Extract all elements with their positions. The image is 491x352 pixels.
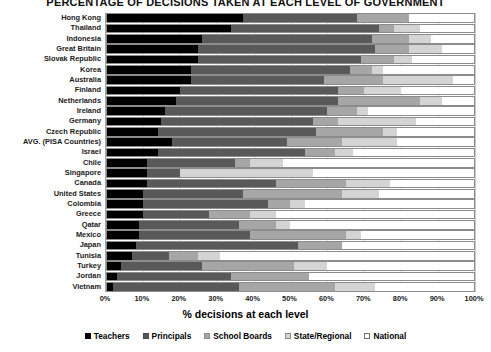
bar-segment-national [342, 241, 475, 250]
bar-segment-school-boards [239, 282, 335, 291]
stacked-bar[interactable] [106, 261, 475, 270]
x-axis-tick: 30% [208, 294, 223, 303]
bar-segment-principals [143, 210, 209, 219]
stacked-bar[interactable] [106, 75, 475, 84]
stacked-bar[interactable] [106, 158, 475, 167]
bar-segment-national [390, 179, 475, 188]
bar-segment-national [290, 220, 475, 229]
stacked-bar[interactable] [106, 251, 475, 260]
stacked-bar[interactable] [106, 44, 475, 53]
bar-segment-teachers [106, 127, 158, 136]
x-axis-tick: 90% [430, 294, 445, 303]
bar-segment-state-regional [250, 210, 276, 219]
y-axis-label: Thailand [0, 23, 101, 32]
stacked-bar[interactable] [106, 272, 475, 281]
bar-segment-teachers [106, 106, 165, 115]
bar-segment-principals [191, 65, 350, 74]
bar-segment-principals [202, 34, 372, 43]
bar-segment-teachers [106, 75, 191, 84]
bar-segment-school-boards [276, 179, 346, 188]
bar-segment-school-boards [169, 251, 199, 260]
bar-segment-teachers [106, 210, 143, 219]
bar-segment-principals [139, 220, 239, 229]
stacked-bar[interactable] [106, 179, 475, 188]
stacked-bar[interactable] [106, 148, 475, 157]
stacked-bar[interactable] [106, 106, 475, 115]
stacked-bar[interactable] [106, 168, 475, 177]
table-row [106, 44, 475, 53]
bar-segment-school-boards [243, 189, 343, 198]
bar-segment-school-boards [338, 96, 419, 105]
bar-segment-school-boards [324, 75, 383, 84]
bar-segment-teachers [106, 65, 191, 74]
bar-segment-national [409, 13, 475, 22]
stacked-bar[interactable] [106, 282, 475, 291]
bar-segment-principals [198, 44, 375, 53]
bar-segment-national [442, 96, 475, 105]
bar-segment-school-boards [313, 117, 339, 126]
y-axis-label: Israel [0, 147, 101, 156]
bar-segment-national [401, 86, 475, 95]
bar-segment-teachers [106, 261, 121, 270]
y-axis-label: Australia [0, 75, 101, 84]
legend-label: School Boards [213, 331, 272, 341]
legend-item-school-boards[interactable]: School Boards [204, 331, 272, 341]
bar-segment-teachers [106, 96, 176, 105]
bar-segment-state-regional [198, 251, 220, 260]
stacked-bar[interactable] [106, 55, 475, 64]
bar-segment-state-regional [335, 148, 353, 157]
table-row [106, 272, 475, 281]
stacked-bar[interactable] [106, 241, 475, 250]
stacked-bar[interactable] [106, 189, 475, 198]
bar-segment-teachers [106, 230, 139, 239]
legend-item-national[interactable]: National [364, 331, 406, 341]
bar-segment-school-boards [316, 127, 382, 136]
table-row [106, 117, 475, 126]
x-axis-tick: 60% [319, 294, 334, 303]
bar-segment-state-regional [383, 75, 453, 84]
stacked-bar[interactable] [106, 199, 475, 208]
table-row [106, 96, 475, 105]
bar-segment-school-boards [231, 272, 308, 281]
stacked-bar[interactable] [106, 220, 475, 229]
stacked-bar[interactable] [106, 86, 475, 95]
bar-segment-school-boards [209, 210, 250, 219]
stacked-bar[interactable] [106, 127, 475, 136]
y-axis-label: Chile [0, 158, 101, 167]
stacked-bar[interactable] [106, 117, 475, 126]
x-axis-title: % decisions at each level [0, 308, 491, 320]
stacked-bar[interactable] [106, 34, 475, 43]
legend-item-state-regional[interactable]: State/Regional [285, 331, 352, 341]
stacked-bar[interactable] [106, 96, 475, 105]
stacked-bar-chart: PERCENTAGE OF DECISIONS TAKEN AT EACH LE… [0, 0, 491, 352]
chart-title: PERCENTAGE OF DECISIONS TAKEN AT EACH LE… [0, 0, 491, 8]
stacked-bar[interactable] [106, 230, 475, 239]
y-axis-label: Singapore [0, 168, 101, 177]
bar-segment-principals [243, 13, 357, 22]
table-row [106, 179, 475, 188]
stacked-bar[interactable] [106, 65, 475, 74]
stacked-bar[interactable] [106, 210, 475, 219]
bar-segment-school-boards [375, 44, 408, 53]
y-axis-label: Slovak Republic [0, 54, 101, 63]
x-axis-tick: 0% [100, 294, 111, 303]
bar-segment-teachers [106, 168, 147, 177]
bar-segment-teachers [106, 24, 231, 33]
bar-segment-teachers [106, 86, 180, 95]
table-row [106, 251, 475, 260]
table-row [106, 24, 475, 33]
stacked-bar[interactable] [106, 13, 475, 22]
bar-rows [106, 13, 475, 292]
bar-segment-principals [191, 75, 324, 84]
bar-segment-principals [147, 179, 276, 188]
x-axis-tick: 20% [171, 294, 186, 303]
x-axis-ticks: 0%10%20%30%40%50%60%70%80%90%100% [105, 294, 474, 306]
bar-segment-teachers [106, 158, 147, 167]
stacked-bar[interactable] [106, 24, 475, 33]
legend-item-principals[interactable]: Principals [143, 331, 192, 341]
bar-segment-principals [147, 158, 236, 167]
bar-segment-state-regional [335, 282, 376, 291]
stacked-bar[interactable] [106, 137, 475, 146]
legend-item-teachers[interactable]: Teachers [85, 331, 130, 341]
y-axis-label: Tunisia [0, 251, 101, 260]
